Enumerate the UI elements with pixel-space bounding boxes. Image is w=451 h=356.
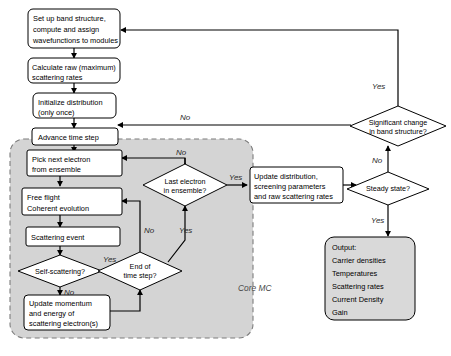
- node-free-flight-line-0: Free flight: [27, 193, 60, 202]
- node-init-dist[interactable]: Initialize distribution (only once): [33, 93, 116, 118]
- edge-label-yes-steady-state: Yes: [371, 216, 384, 225]
- edge-significantchange-yes: [121, 30, 398, 106]
- node-significant-change-line-0: Significant change: [369, 118, 428, 127]
- node-pick-electron-line-0: Pick next electron: [32, 155, 90, 164]
- node-significant-change[interactable]: Significant change in band structure?: [350, 106, 446, 146]
- edge-label-no-end-time-step: No: [144, 226, 155, 235]
- node-update-distribution-line-2: and raw scattering rates: [254, 192, 333, 201]
- node-setup-line-0: Set up band structure,: [33, 14, 106, 23]
- node-self-scattering-line-0: Self-scattering?: [35, 267, 85, 276]
- edge-label-no-band-structure: No: [372, 156, 383, 165]
- node-update-momentum[interactable]: Update momentum and energy of scattering…: [24, 295, 110, 330]
- node-pick-electron[interactable]: Pick next electron from ensemble: [27, 150, 122, 176]
- edge-label-no-self-scattering: No: [64, 288, 75, 297]
- node-scattering-event[interactable]: Scattering event: [26, 227, 120, 246]
- node-pick-electron-line-1: from ensemble: [32, 165, 81, 174]
- edge-label-no-top-feedback: No: [180, 113, 191, 122]
- node-output-line-0: Output:: [332, 243, 356, 252]
- flowchart-diagram: Core MC: [0, 0, 451, 356]
- node-raw-rates-line-1: scattering rates: [32, 73, 83, 82]
- node-free-flight[interactable]: Free flight Coherent evolution: [22, 188, 122, 215]
- node-update-distribution-line-1: screening parameters: [254, 182, 326, 191]
- node-advance-time-line-0: Advance time step: [38, 133, 99, 142]
- node-significant-change-line-1: in band structure?: [369, 127, 427, 136]
- node-init-dist-line-0: Initialize distribution: [38, 98, 103, 107]
- node-output-line-5: Gain: [332, 308, 348, 317]
- core-mc-label: Core MC: [238, 283, 272, 293]
- node-update-distribution-line-0: Update distribution,: [254, 172, 318, 181]
- node-output[interactable]: Output: Carrier densities Temperatures S…: [325, 237, 415, 320]
- node-last-electron-line-0: Last electron: [164, 177, 205, 186]
- node-raw-rates-line-0: Calculate raw (maximum): [32, 63, 116, 72]
- node-update-momentum-line-0: Update momentum: [29, 299, 92, 308]
- node-scattering-event-line-0: Scattering event: [31, 233, 84, 242]
- node-init-dist-line-1: (only once): [38, 108, 75, 117]
- edge-label-no-last-electron: No: [176, 148, 187, 157]
- edge-label-yes-last-electron: Yes: [229, 173, 242, 182]
- node-advance-time[interactable]: Advance time step: [32, 128, 118, 145]
- node-output-line-1: Carrier densities: [332, 256, 386, 265]
- node-end-time-step-line-1: time step?: [123, 271, 156, 280]
- node-update-momentum-line-2: scattering electron(s): [29, 319, 98, 328]
- node-setup-line-2: wavefunctions to modules: [32, 36, 118, 45]
- node-end-time-step-line-0: End of: [130, 262, 151, 271]
- node-free-flight-line-1: Coherent evolution: [27, 204, 89, 213]
- edge-label-yes-end-time-step: Yes: [179, 226, 192, 235]
- flowchart-canvas: Core MC: [0, 0, 451, 356]
- node-update-distribution[interactable]: Update distribution, screening parameter…: [250, 167, 343, 203]
- node-setup[interactable]: Set up band structure, compute and assig…: [28, 9, 120, 48]
- node-output-line-3: Scattering rates: [332, 282, 384, 291]
- node-steady-state[interactable]: Steady state?: [347, 172, 429, 205]
- edge-label-yes-band-structure: Yes: [372, 82, 385, 91]
- node-last-electron-line-1: in ensemble?: [164, 186, 207, 195]
- node-setup-line-1: compute and assign: [33, 25, 99, 34]
- edge-label-yes-self-scattering: Yes: [103, 255, 116, 264]
- node-steady-state-line-0: Steady state?: [366, 184, 410, 193]
- node-update-momentum-line-1: and energy of: [29, 309, 75, 318]
- node-output-line-2: Temperatures: [332, 269, 377, 278]
- node-raw-rates[interactable]: Calculate raw (maximum) scattering rates: [28, 58, 120, 83]
- node-output-line-4: Current Density: [332, 295, 384, 304]
